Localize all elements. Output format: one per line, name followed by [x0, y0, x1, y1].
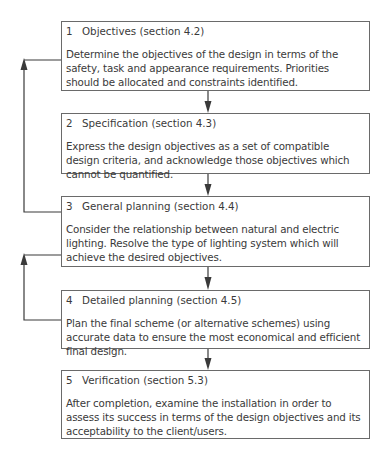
step-title-text: Objectives (section 4.2)	[82, 25, 204, 37]
step-description: After completion, examine the installati…	[66, 396, 365, 438]
step-number: 2	[66, 117, 82, 130]
step-box-5: 5Verification (section 5.3) After comple…	[61, 370, 370, 439]
step-box-1: 1Objectives (section 4.2) Determine the …	[61, 21, 370, 91]
step-title-text: Detailed planning (section 4.5)	[82, 294, 241, 306]
step-description: Plan the final scheme (or alternative sc…	[66, 316, 365, 358]
step-description: Express the design objectives as a set o…	[66, 139, 365, 181]
step-description: Determine the objectives of the design i…	[66, 47, 365, 89]
step-title-text: Verification (section 5.3)	[82, 374, 208, 386]
step-title: 5Verification (section 5.3)	[66, 374, 365, 387]
step-number: 1	[66, 25, 82, 38]
forward-arrow-1-2	[205, 90, 212, 113]
step-number: 4	[66, 294, 82, 307]
step-description: Consider the relationship between natura…	[66, 222, 365, 264]
step-title: 2Specification (section 4.3)	[66, 117, 365, 130]
feedback-arrow-3-1	[21, 58, 62, 212]
step-title-text: Specification (section 4.3)	[82, 117, 216, 129]
step-title: 4Detailed planning (section 4.5)	[66, 294, 365, 307]
step-number: 5	[66, 374, 82, 387]
feedback-arrow-4-3	[21, 253, 62, 320]
step-title-text: General planning (section 4.4)	[82, 200, 239, 212]
step-box-2: 2Specification (section 4.3) Express the…	[61, 113, 370, 174]
step-title: 3General planning (section 4.4)	[66, 200, 365, 213]
step-box-4: 4Detailed planning (section 4.5) Plan th…	[61, 290, 370, 349]
step-title: 1Objectives (section 4.2)	[66, 25, 365, 38]
step-box-3: 3General planning (section 4.4) Consider…	[61, 196, 370, 267]
step-number: 3	[66, 200, 82, 213]
forward-arrow-3-4	[205, 266, 212, 290]
